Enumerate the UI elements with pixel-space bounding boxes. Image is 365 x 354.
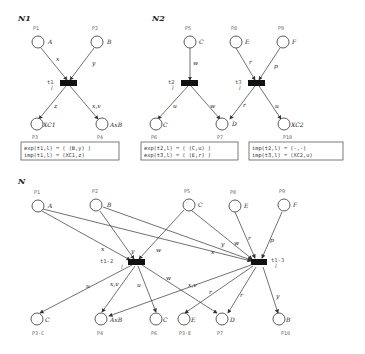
arc-label: r <box>248 234 252 241</box>
interface-line: imp(t3,l) = (XC2,u) <box>252 152 313 159</box>
net-n1: N1 P1 A P2 B XC1 P3 AxB P4 t1 l x y z x,… <box>17 13 123 160</box>
place-id: P2 <box>92 188 98 194</box>
place-token: D <box>229 316 235 323</box>
arc-label: x,v <box>110 280 119 287</box>
place-p2[interactable] <box>91 36 103 48</box>
arc-label: z <box>53 102 58 109</box>
arc-p1-t13 <box>43 209 251 261</box>
place-p2[interactable] <box>90 199 102 211</box>
transition-id: t1-3 <box>271 257 284 263</box>
arc-label: w <box>156 246 162 253</box>
place-p3-e[interactable] <box>178 313 190 325</box>
transition-sub: l <box>121 264 123 270</box>
arc-label: y <box>275 292 280 300</box>
transition-t2[interactable] <box>181 80 198 86</box>
petri-net-diagram: N1 P1 A P2 B XC1 P3 AxB P4 t1 l x y z x,… <box>0 0 365 354</box>
place-p9[interactable] <box>278 199 290 211</box>
place-p6[interactable] <box>150 118 162 130</box>
place-p4[interactable] <box>96 118 108 130</box>
transition-sub: l <box>172 85 174 91</box>
place-p9[interactable] <box>277 36 289 48</box>
place-id: P4 <box>97 330 103 336</box>
place-p3[interactable] <box>31 118 43 130</box>
place-token: C <box>163 316 168 323</box>
place-token: F <box>292 201 298 208</box>
place-id: P10 <box>283 134 292 140</box>
arc-label: u <box>137 281 141 288</box>
place-id: P5 <box>185 25 191 31</box>
arc-label: x,v <box>188 281 197 288</box>
place-token: F <box>291 38 297 45</box>
arc-t13-p3e <box>185 266 253 313</box>
place-id: P7 <box>217 134 223 140</box>
arc-label: y <box>220 240 225 248</box>
transition-sub: l <box>51 85 53 91</box>
interface-line: imp(t2,l) = (-,-) <box>252 145 306 152</box>
arc-p2-t1 <box>70 48 94 80</box>
place-id: P1 <box>33 25 39 31</box>
arc-label: p <box>270 236 274 244</box>
arc-label: y <box>130 247 135 255</box>
place-token: C <box>199 38 204 45</box>
transition-t1-2[interactable] <box>128 259 145 265</box>
place-token: C <box>198 201 203 208</box>
arc-label: w <box>166 274 172 281</box>
place-p7[interactable] <box>216 313 228 325</box>
place-id: P10 <box>281 330 290 336</box>
place-id: P7 <box>217 330 223 336</box>
place-token: C <box>163 121 168 128</box>
net-title: N2 <box>151 13 165 23</box>
place-token: E <box>243 202 249 209</box>
place-p5[interactable] <box>183 199 195 211</box>
arc-t12-p6 <box>138 266 156 312</box>
arc-t12-p4 <box>102 266 135 312</box>
transition-t3[interactable] <box>248 80 265 86</box>
arc-label: u <box>173 102 177 109</box>
arc-label: p <box>274 62 278 70</box>
place-token: D <box>231 120 237 127</box>
place-p10[interactable] <box>278 118 290 130</box>
place-p1[interactable] <box>32 200 44 212</box>
place-p5[interactable] <box>184 36 196 48</box>
place-p8[interactable] <box>230 36 242 48</box>
place-p3-c[interactable] <box>31 313 43 325</box>
place-token: C <box>45 316 50 323</box>
place-p7[interactable] <box>216 118 228 130</box>
net-n2: N2 P5 C P8 E P9 F C P6 D P7 XC2 P10 t2 l <box>141 13 343 160</box>
transition-sub: l <box>275 263 277 269</box>
arc-t13-p10 <box>263 267 278 313</box>
transition-t1-3[interactable] <box>251 259 267 265</box>
place-token: AxB <box>109 121 123 128</box>
arc-label: u <box>86 282 90 289</box>
place-id: P3-C <box>32 330 44 336</box>
arc-p2-t12 <box>100 211 134 259</box>
arc-t2-p7 <box>191 86 220 119</box>
place-id: P1 <box>34 189 40 195</box>
place-token: XC1 <box>42 121 56 128</box>
arc-label: u <box>275 102 279 109</box>
place-id: P4 <box>97 134 103 140</box>
arc-label: r <box>249 58 253 65</box>
transition-t1[interactable] <box>60 80 77 86</box>
place-p8[interactable] <box>229 200 241 212</box>
interface-line: exp(t2,l) = ( (C,u) ) <box>144 145 211 152</box>
arc-label: w <box>193 59 199 66</box>
place-p10[interactable] <box>273 313 285 325</box>
place-p6[interactable] <box>150 313 162 325</box>
net-title: N <box>17 176 26 186</box>
place-token: A <box>47 202 53 209</box>
place-id: P8 <box>230 189 236 195</box>
place-token: E <box>190 316 196 323</box>
arc-label: w <box>210 102 216 109</box>
place-id: P6 <box>151 134 157 140</box>
net-title: N1 <box>17 13 31 23</box>
place-id: P8 <box>231 25 237 31</box>
place-p1[interactable] <box>32 36 44 48</box>
place-id: P2 <box>92 25 98 31</box>
place-p4[interactable] <box>95 313 107 325</box>
place-id: P9 <box>279 188 285 194</box>
interface-line: exp(t1,l) = ( (B,y) ) <box>24 145 91 152</box>
interface-line: imp(t1,l) = (XC1,z) <box>24 152 85 159</box>
place-id: P3-E <box>179 330 191 336</box>
place-token: B <box>106 38 112 45</box>
